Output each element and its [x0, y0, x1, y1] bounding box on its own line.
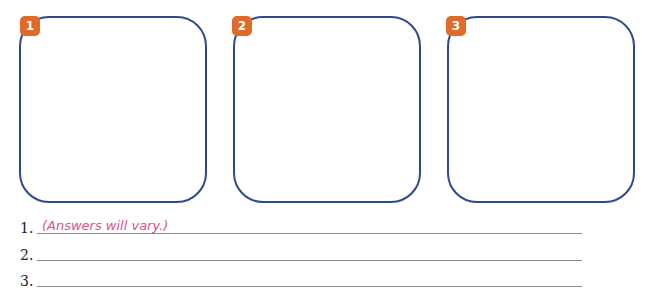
- answer-number: 3.: [20, 272, 33, 290]
- writing-line: [37, 286, 582, 287]
- panel-number-badge-3: 3: [446, 16, 466, 36]
- answer-line-2[interactable]: 2.: [20, 246, 582, 264]
- panel-number-badge-2: 2: [232, 16, 252, 36]
- answer-number: 2.: [20, 246, 33, 264]
- drawing-panel-2: [233, 16, 421, 203]
- drawing-panel-3: [447, 16, 635, 203]
- answer-text: (Answers will vary.): [42, 218, 168, 234]
- answer-number: 1.: [20, 219, 33, 237]
- answer-line-1[interactable]: 1. (Answers will vary.): [20, 219, 582, 237]
- drawing-panel-1: [19, 16, 207, 203]
- writing-line: [37, 260, 582, 261]
- answer-line-3[interactable]: 3.: [20, 272, 582, 290]
- panel-number-badge-1: 1: [20, 16, 40, 36]
